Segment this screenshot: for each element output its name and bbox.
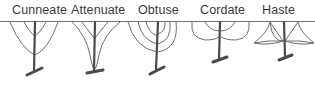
attenuate-leaf-icon: [72, 22, 120, 73]
haste-leaf-icon: [254, 22, 314, 60]
cunneate-leaf-icon: [10, 22, 58, 75]
leaf-base-diagram: [0, 0, 315, 88]
obtuse-leaf-icon: [128, 22, 176, 74]
cordate-leaf-icon: [192, 22, 249, 62]
